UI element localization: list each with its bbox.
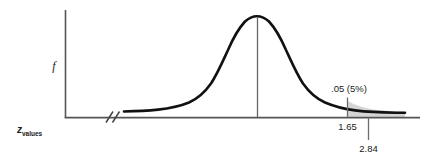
test-statistic-label: 2.84	[359, 143, 378, 154]
x-axis-label-sub: values	[22, 130, 43, 137]
y-axis-label: f	[52, 59, 57, 73]
normal-density-curve	[124, 16, 405, 113]
critical-value-label: 1.65	[338, 121, 357, 132]
statistics-figure: .05 (5%) 1.65 2.84 f zvalues	[0, 0, 436, 165]
normal-curve-chart: .05 (5%) 1.65 2.84 f zvalues	[0, 0, 436, 165]
tail-area-label: .05 (5%)	[331, 83, 367, 94]
x-axis-label: zvalues	[16, 124, 43, 137]
